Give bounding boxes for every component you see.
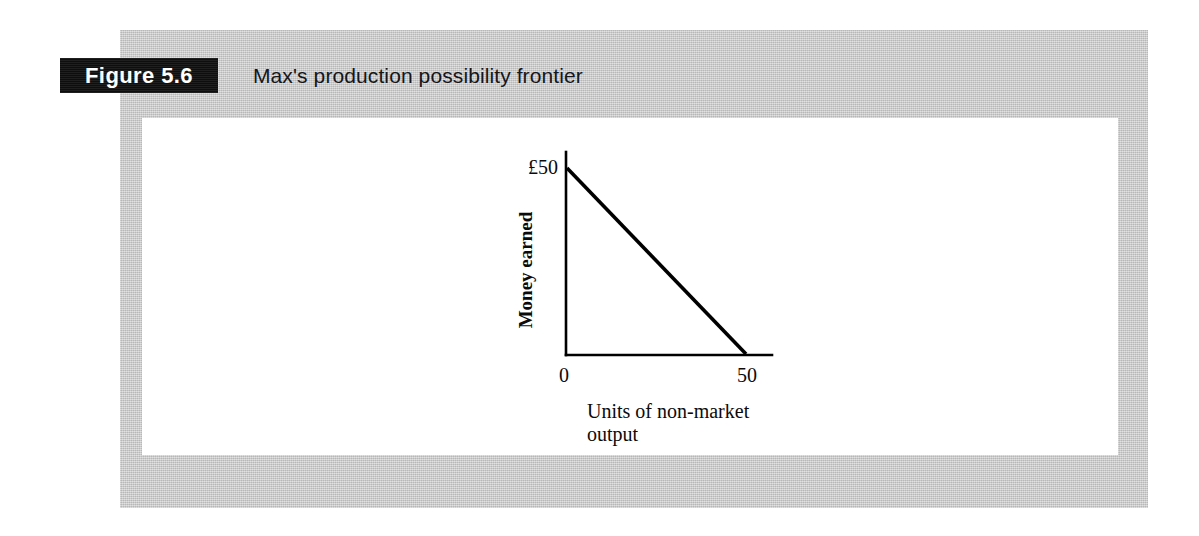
figure-title: Max's production possibility frontier (253, 60, 583, 92)
figure-number-badge: Figure 5.6 (60, 58, 218, 93)
y-tick-label-50: £50 (528, 156, 558, 178)
x-axis-title-line2: output (587, 423, 639, 446)
x-tick-label-0: 0 (559, 364, 569, 386)
x-axis-title-line1: Units of non-market (587, 400, 750, 422)
ppf-frontier-line (567, 168, 746, 354)
figure-number-label: Figure 5.6 (85, 65, 193, 87)
x-tick-label-50: 50 (737, 364, 757, 386)
y-axis-title: Money earned (515, 211, 536, 328)
ppf-chart: £50 0 50 Units of non-market output Mone… (470, 140, 800, 450)
chart-svg: £50 0 50 Units of non-market output Mone… (470, 140, 800, 450)
